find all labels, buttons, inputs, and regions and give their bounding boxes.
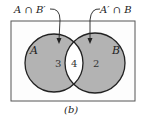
figure-caption: (b) [64, 104, 78, 115]
set-a-label: A [29, 44, 38, 57]
a-only-count: 3 [55, 58, 61, 69]
set-b-label: B [111, 44, 120, 57]
intersection-count: 4 [71, 58, 77, 69]
callout-not-a-b: A′ ∩ B [99, 4, 132, 15]
callout-a-not-b: A ∩ B′ [13, 4, 46, 15]
b-only-count: 2 [93, 58, 99, 69]
venn-diagram: A B 3 4 2 A ∩ B′ A′ ∩ B (b) [0, 0, 145, 120]
